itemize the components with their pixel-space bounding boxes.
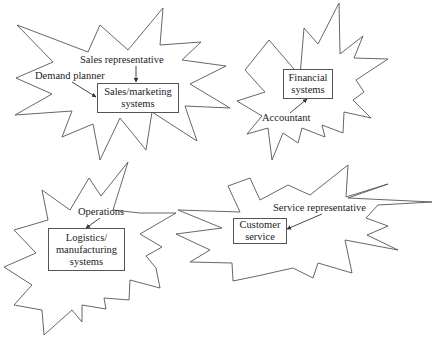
system-label-line: Logistics/ <box>49 232 124 244</box>
role-service-representative: Service representative <box>273 202 366 214</box>
system-label-line: systems <box>49 256 124 268</box>
system-label-line: systems <box>98 98 178 110</box>
customer-service-box: Customer service <box>233 218 287 244</box>
financial-systems-box: Financial systems <box>283 69 333 99</box>
logistics-manufacturing-systems-box: Logistics/ manufacturing systems <box>48 228 125 271</box>
system-label-line: systems <box>284 84 332 96</box>
sales-marketing-systems-box: Sales/marketing systems <box>97 83 179 113</box>
system-label-line: Customer <box>234 219 286 231</box>
system-label-line: manufacturing <box>49 244 124 256</box>
role-sales-representative: Sales representative <box>80 54 164 66</box>
system-label-line: service <box>234 231 286 243</box>
role-demand-planner: Demand planner <box>35 70 105 82</box>
customer-service-starburst <box>176 165 432 281</box>
system-label-line: Financial <box>284 72 332 84</box>
role-operations: Operations <box>78 206 124 218</box>
system-label-line: Sales/marketing <box>98 86 178 98</box>
diagram-canvas <box>0 0 441 343</box>
role-accountant: Accountant <box>262 112 310 124</box>
